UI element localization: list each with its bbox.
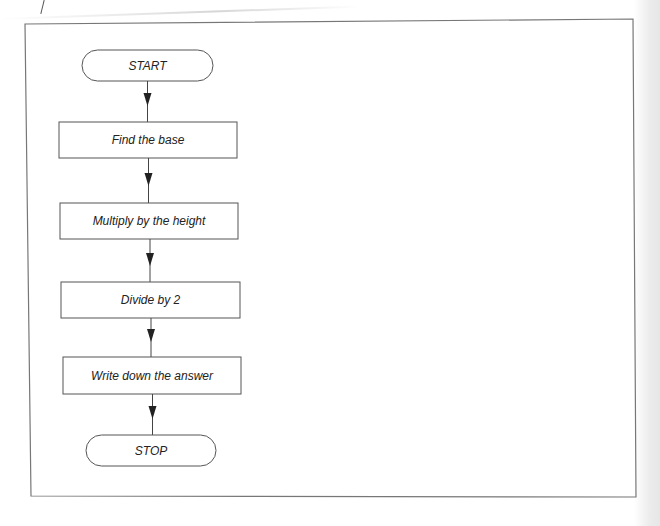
start-label: START bbox=[82, 59, 213, 73]
arrowhead-icon bbox=[146, 253, 154, 266]
diagram-frame bbox=[25, 19, 636, 497]
arrowhead-icon bbox=[144, 93, 152, 106]
step-label-find-base: Find the base bbox=[59, 133, 237, 147]
arrowhead-icon bbox=[145, 173, 153, 186]
step-label-write-answer: Write down the answer bbox=[63, 369, 241, 383]
arrowhead-icon bbox=[147, 329, 155, 342]
arrowhead-icon bbox=[149, 406, 157, 419]
step-label-divide-by-2: Divide by 2 bbox=[61, 293, 240, 307]
step-label-multiply-height: Multiply by the height bbox=[60, 214, 238, 228]
stop-label: STOP bbox=[86, 444, 216, 458]
